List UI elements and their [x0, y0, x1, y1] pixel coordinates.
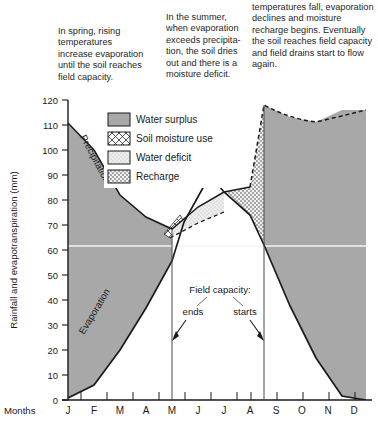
month-label-may: M — [168, 405, 176, 416]
y-tick-30: 30 — [48, 320, 58, 331]
y-axis-title: Rainfall and evapotranspiration (mm) — [8, 171, 19, 328]
month-label-jun: J — [196, 405, 201, 416]
legend-label-recharge: Recharge — [136, 171, 180, 182]
y-tick-100: 100 — [42, 145, 58, 156]
water-balance-figure: In spring, rising temperatures increase … — [0, 0, 378, 426]
x-axis-ticks — [81, 392, 355, 400]
field-capacity-ends-arrow — [172, 320, 186, 341]
field-capacity-title: Field capacity: — [189, 284, 250, 295]
month-label-aug: A — [247, 405, 254, 416]
field-capacity-ends-label: ends — [183, 306, 204, 317]
y-tick-50: 50 — [48, 270, 58, 281]
y-tick-120: 120 — [42, 95, 58, 106]
legend-item-recharge: Recharge — [108, 170, 180, 183]
legend-label-water-surplus: Water surplus — [136, 114, 197, 125]
y-tick-110: 110 — [43, 120, 58, 131]
water-balance-chart: 0 10 20 30 40 50 60 70 80 90 100 110 120… — [0, 0, 378, 426]
legend-swatch-recharge — [108, 170, 130, 183]
field-capacity-starts-label: starts — [233, 306, 257, 317]
y-tick-20: 20 — [48, 345, 58, 356]
y-axis-tick-labels: 0 10 20 30 40 50 60 70 80 90 100 110 120 — [42, 95, 58, 406]
legend-item-water-deficit: Water deficit — [108, 151, 191, 164]
legend-item-water-surplus: Water surplus — [108, 113, 197, 126]
x-axis-month-labels: J F M A M J J A S O N D — [66, 405, 358, 416]
y-tick-40: 40 — [48, 295, 58, 306]
month-label-jul: J — [222, 405, 227, 416]
region-water-deficit — [172, 192, 224, 235]
month-label-sep: S — [273, 405, 280, 416]
y-tick-0: 0 — [53, 395, 58, 406]
y-tick-90: 90 — [48, 170, 58, 181]
month-label-jan: J — [66, 405, 71, 416]
month-label-nov: N — [324, 405, 331, 416]
y-tick-80: 80 — [48, 195, 58, 206]
y-tick-60: 60 — [48, 245, 58, 256]
months-caption: Months — [4, 405, 36, 416]
month-label-oct: O — [298, 405, 306, 416]
legend-label-soil-moisture-use: Soil moisture use — [136, 133, 213, 144]
month-label-dec: D — [350, 405, 357, 416]
legend-swatch-water-surplus — [108, 113, 130, 126]
legend-swatch-water-deficit — [108, 151, 130, 164]
month-label-apr: A — [143, 405, 150, 416]
month-label-mar: M — [116, 405, 124, 416]
field-capacity-leader-right — [233, 297, 243, 306]
month-label-feb: F — [91, 405, 97, 416]
legend-swatch-soil-moisture-use — [108, 132, 130, 145]
y-tick-10: 10 — [48, 370, 58, 381]
legend-item-soil-moisture-use: Soil moisture use — [108, 132, 213, 145]
legend-label-water-deficit: Water deficit — [136, 152, 191, 163]
y-axis-ticks — [62, 100, 68, 400]
field-capacity-leader-left — [197, 297, 207, 306]
legend: Water surplus Soil moisture use Water de… — [104, 110, 230, 188]
field-capacity-starts-arrow — [250, 320, 264, 341]
y-tick-70: 70 — [48, 220, 58, 231]
